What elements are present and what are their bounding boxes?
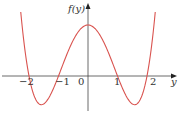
tick-label-neg1: −1 bbox=[55, 76, 70, 87]
y-axis-arrow-icon bbox=[86, 3, 91, 9]
tick-label-0: 0 bbox=[78, 76, 84, 87]
function-graph: f(y) y −2 −1 0 1 2 bbox=[0, 0, 181, 113]
tick-label-2: 2 bbox=[150, 76, 156, 87]
tick-label-neg2: −2 bbox=[19, 76, 34, 87]
tick-label-1: 1 bbox=[114, 76, 120, 87]
y-axis-label: f(y) bbox=[67, 3, 85, 14]
x-axis-label: y bbox=[170, 76, 177, 87]
